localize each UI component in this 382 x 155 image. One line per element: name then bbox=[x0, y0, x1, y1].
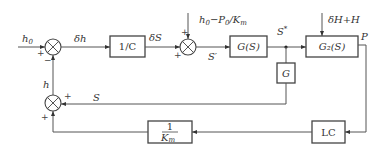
svg-text:G₂(S): G₂(S) bbox=[319, 41, 346, 52]
s-prime-label: S′ bbox=[208, 51, 218, 62]
svg-text:LC: LC bbox=[321, 127, 336, 138]
disturbance-2-label: δH+H bbox=[328, 14, 360, 25]
block-g2-s: G₂(S) bbox=[306, 36, 358, 57]
sign-plus: + bbox=[41, 112, 49, 122]
svg-text:G(S): G(S) bbox=[237, 41, 260, 52]
svg-text:1/C: 1/C bbox=[119, 41, 137, 52]
output-p-line bbox=[345, 45, 366, 132]
arrow-icon bbox=[175, 45, 180, 49]
arrow-icon bbox=[225, 45, 230, 49]
arrow-icon bbox=[301, 45, 306, 49]
s-star-label: S* bbox=[277, 25, 288, 37]
block-g: G bbox=[277, 63, 295, 83]
arrow-icon bbox=[345, 130, 350, 134]
block-g-s: G(S) bbox=[230, 36, 267, 57]
output-p-label: P bbox=[360, 31, 368, 42]
svg-text:G: G bbox=[282, 68, 290, 79]
delta-h-label: δh bbox=[74, 33, 86, 44]
arrow-icon bbox=[51, 111, 55, 116]
block-inverse-c: 1/C bbox=[110, 36, 145, 57]
feedback-s-label: S bbox=[93, 92, 100, 103]
feedback-h-label: h bbox=[43, 79, 49, 90]
block-lc: LC bbox=[312, 121, 345, 143]
sign-plus: + bbox=[174, 50, 182, 60]
arrow-icon bbox=[192, 130, 197, 134]
disturbance-1: h0−P0/Km bbox=[186, 13, 247, 39]
summing-junction-3: + + bbox=[41, 91, 72, 122]
arrow-icon bbox=[51, 55, 55, 60]
disturbance-1-label: h0−P0/Km bbox=[199, 14, 247, 27]
delta-s-label: δS bbox=[149, 32, 162, 43]
arrow-icon bbox=[105, 45, 110, 49]
disturbance-2: δH+H bbox=[320, 13, 360, 36]
input-signal: h0 bbox=[18, 33, 45, 49]
summing-junction-2: + + bbox=[174, 27, 196, 60]
summing-junction-1: + − bbox=[37, 39, 61, 65]
sign-plus: + bbox=[64, 91, 72, 101]
sign-minus: − bbox=[44, 55, 52, 65]
input-label: h0 bbox=[22, 33, 33, 46]
block-diagram: h0 + − δh 1/C δS + + h0−P0/Km S′ G(S bbox=[0, 0, 382, 155]
km-feedback-line bbox=[53, 111, 148, 132]
block-inverse-km: 1 Km bbox=[148, 121, 192, 144]
svg-text:1: 1 bbox=[167, 121, 173, 132]
arrow-icon bbox=[61, 102, 66, 106]
